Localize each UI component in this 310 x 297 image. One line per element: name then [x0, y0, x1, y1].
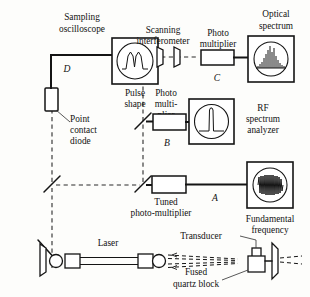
laser-window-right [153, 255, 166, 268]
scanning-interferometer-label-2: interferometer [136, 36, 190, 46]
optical-spectrum-label-1: Optical [262, 9, 290, 19]
laser-window-left [50, 255, 63, 268]
photo-multiplier-c-label-1: Photo [207, 28, 229, 38]
optical-schematic-figure: Point contact diode D Sampling oscillosc… [0, 0, 310, 297]
point-contact-diode-leader [56, 110, 70, 122]
channel-label-c: C [214, 72, 221, 83]
fused-quartz-block-label-2: quartz block [173, 279, 220, 289]
rf-spectrum-analyzer-label-3: analyzer [247, 125, 279, 135]
interferometer-mirror-right [174, 47, 180, 67]
fused-quartz-block-leader [222, 270, 248, 280]
wire-diode-to-oscilloscope [51, 55, 112, 88]
laser-label: Laser [98, 238, 120, 248]
point-contact-diode-label-3: diode [70, 136, 91, 146]
photo-multiplier-c-label-2: multiplier [200, 39, 238, 49]
point-contact-diode [45, 88, 70, 122]
fundamental-frequency-caption-1: Fundamental [246, 214, 295, 224]
sampling-oscilloscope-caption-1: Pulse [125, 88, 145, 98]
transducer-leader [240, 236, 256, 248]
laser-end-mirror-left [40, 244, 46, 276]
rf-spectrum-analyzer-label-2: spectrum [246, 114, 281, 124]
tuned-photo-multiplier-label-2: photo-multiplier [131, 208, 193, 218]
fundamental-frequency-caption-2: frequency [251, 225, 289, 235]
tuned-photo-multiplier-body [152, 176, 186, 193]
sampling-oscilloscope-caption-2: shape [124, 99, 145, 109]
fundamental-frequency-display [247, 162, 293, 208]
point-contact-diode-label-1: Point [70, 114, 90, 124]
fused-quartz-block [248, 256, 265, 272]
rf-spectrum-analyzer-label-1: RF [257, 103, 268, 113]
photo-multiplier-b-label-1: Photo [155, 88, 177, 98]
channel-label-b: B [164, 137, 170, 148]
photo-multiplier-b-label-2: multi- [155, 99, 178, 109]
transducer-label: Transducer [180, 231, 222, 241]
optical-spectrum-display [248, 36, 294, 82]
laser-mount-right [138, 254, 153, 268]
interferometer-mirror-left [157, 47, 163, 67]
sampling-oscilloscope-label-1: Sampling [64, 12, 100, 22]
scanning-interferometer-label-1: Scanning [146, 25, 181, 35]
tuned-photo-multiplier-label-1: Tuned [154, 197, 178, 207]
laser-cavity [40, 244, 166, 276]
sampling-oscilloscope-label-2: oscilloscope [59, 24, 105, 34]
channel-label-a: A [211, 192, 218, 203]
point-contact-diode-label-2: contact [70, 125, 97, 135]
fused-quartz-block-label-1: Fused [185, 267, 208, 277]
scanning-interferometer [157, 47, 180, 67]
channel-label-d: D [63, 63, 71, 74]
optical-spectrum-label-2: spectrum [259, 21, 294, 31]
laser-mount-left [65, 254, 80, 268]
photo-multiplier-b-body [153, 114, 186, 130]
photo-multiplier-c-body [201, 50, 234, 65]
cavity-end-mirror-right [272, 243, 278, 279]
rf-spectrum-analyzer-display [189, 99, 234, 144]
